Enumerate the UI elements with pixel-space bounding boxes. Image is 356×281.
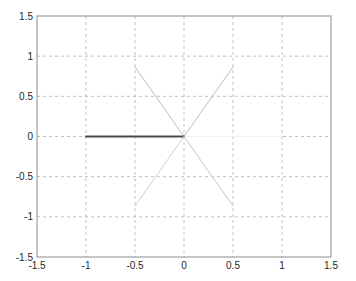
y-tick-label: -1 bbox=[24, 211, 33, 222]
y-tick-label: 1.5 bbox=[19, 11, 33, 22]
x-tick-label: 1.5 bbox=[324, 260, 338, 271]
y-tick-label: -1.5 bbox=[16, 252, 34, 263]
y-tick-label: -0.5 bbox=[16, 171, 34, 182]
x-tick-label: -0.5 bbox=[126, 260, 144, 271]
x-tick-label: -1 bbox=[82, 260, 91, 271]
y-tick-label: 0.5 bbox=[19, 91, 33, 102]
x-axis-ticks: -1.5-1-0.500.511.5 bbox=[28, 260, 338, 271]
chart-canvas: -1.5-1-0.500.511.5 -1.5-1-0.500.511.5 bbox=[0, 0, 356, 281]
y-axis-ticks: -1.5-1-0.500.511.5 bbox=[16, 11, 34, 263]
x-tick-label: 0 bbox=[181, 260, 187, 271]
x-tick-label: 1 bbox=[279, 260, 285, 271]
y-tick-label: 0 bbox=[27, 131, 33, 142]
y-tick-label: 1 bbox=[27, 51, 33, 62]
x-tick-label: 0.5 bbox=[226, 260, 240, 271]
